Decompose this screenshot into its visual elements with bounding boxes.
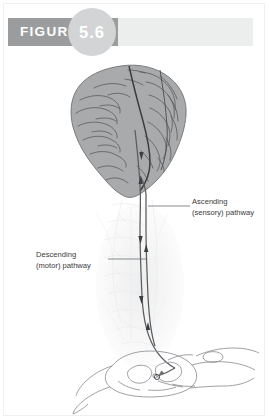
cerebrum (71, 65, 186, 197)
spinal-cord-cross-section (73, 348, 259, 414)
label-ascending-line1: Ascending (192, 197, 227, 206)
figure-page: FIGURE 5.6 (0, 0, 269, 420)
label-ascending-line2: (sensory) pathway (192, 208, 254, 219)
label-descending-line1: Descending (36, 250, 76, 259)
label-descending-line2: (motor) pathway (36, 261, 91, 272)
label-ascending-pathway: Ascending (sensory) pathway (192, 197, 254, 218)
label-descending-pathway: Descending (motor) pathway (36, 250, 91, 271)
